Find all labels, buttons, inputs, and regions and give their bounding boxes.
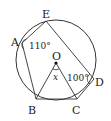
segment-EA [22, 21, 46, 43]
label-A: A [10, 36, 20, 49]
label-C: C [72, 104, 80, 117]
label-D: D [95, 76, 104, 89]
angle-label-x: x [53, 72, 58, 82]
label-B: B [28, 104, 36, 117]
geometry-diagram: O A B C D E 110° 100° x [0, 0, 111, 121]
segment-AB [22, 43, 36, 99]
angle-arc-O [53, 69, 59, 70]
angle-label-A: 110° [29, 41, 51, 51]
label-E: E [42, 8, 50, 21]
angle-label-D: 100° [67, 73, 89, 83]
circle-diagram-svg: O A B C D E 110° 100° x [0, 0, 111, 121]
label-O: O [52, 50, 61, 63]
